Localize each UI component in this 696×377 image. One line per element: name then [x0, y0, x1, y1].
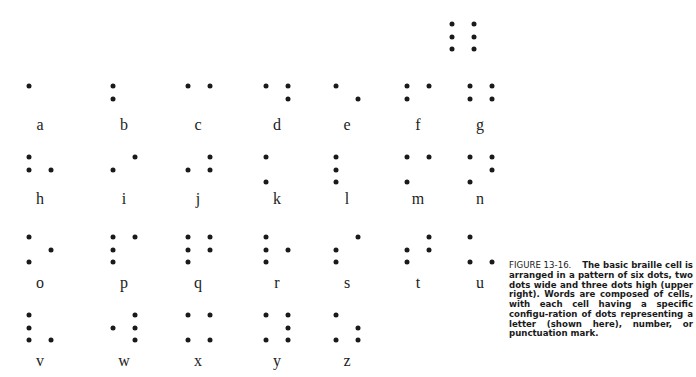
braille-dot-4: [426, 235, 431, 240]
braille-dot-3: [450, 47, 455, 52]
braille-dot-2: [405, 96, 410, 101]
letter-label-u: u: [476, 275, 484, 291]
braille-dot-1: [405, 84, 410, 89]
braille-dot-1: [186, 313, 191, 318]
letter-label-b: b: [120, 117, 128, 133]
letter-label-j: j: [196, 191, 200, 207]
braille-dot-5: [471, 34, 476, 39]
braille-dot-4: [207, 84, 212, 89]
braille-dot-3: [334, 260, 339, 265]
braille-dot-1: [468, 155, 473, 160]
braille-dot-1: [186, 84, 191, 89]
braille-dot-5: [285, 247, 290, 252]
braille-dot-2: [111, 167, 116, 172]
braille-dot-6: [489, 260, 494, 265]
letter-label-t: t: [416, 275, 420, 291]
braille-dot-4: [471, 22, 476, 27]
braille-dot-4: [489, 155, 494, 160]
letter-label-k: k: [273, 191, 281, 207]
braille-dot-5: [285, 325, 290, 330]
braille-dot-3: [468, 180, 473, 185]
braille-dot-4: [207, 235, 212, 240]
braille-dot-3: [334, 180, 339, 185]
letter-label-v: v: [36, 353, 44, 369]
braille-dot-4: [132, 235, 137, 240]
letter-label-n: n: [476, 191, 484, 207]
braille-dot-2: [264, 247, 269, 252]
braille-dot-6: [48, 338, 53, 343]
braille-dot-1: [264, 84, 269, 89]
letter-label-o: o: [36, 275, 44, 291]
braille-dot-4: [355, 235, 360, 240]
braille-dot-2: [334, 167, 339, 172]
braille-dot-3: [405, 180, 410, 185]
letter-label-i: i: [122, 191, 126, 207]
letter-label-h: h: [36, 191, 44, 207]
braille-dot-1: [186, 235, 191, 240]
figure-number: FIGURE 13-16.: [509, 260, 571, 270]
braille-dot-1: [334, 155, 339, 160]
braille-dot-5: [489, 167, 494, 172]
braille-dot-5: [489, 96, 494, 101]
braille-dot-3: [264, 260, 269, 265]
braille-dot-1: [334, 84, 339, 89]
braille-dot-5: [355, 325, 360, 330]
braille-dot-3: [468, 260, 473, 265]
braille-dot-2: [334, 247, 339, 252]
letter-label-x: x: [194, 353, 202, 369]
braille-dot-4: [207, 155, 212, 160]
letter-label-d: d: [273, 117, 281, 133]
braille-dot-4: [207, 313, 212, 318]
letter-label-l: l: [345, 191, 349, 207]
letter-label-m: m: [412, 191, 424, 207]
braille-dot-3: [27, 260, 32, 265]
braille-dot-3: [405, 260, 410, 265]
braille-dot-1: [468, 235, 473, 240]
braille-dot-2: [468, 96, 473, 101]
braille-dot-3: [264, 180, 269, 185]
braille-dot-5: [207, 167, 212, 172]
braille-dot-5: [48, 247, 53, 252]
braille-dot-2: [405, 247, 410, 252]
letter-label-y: y: [273, 353, 281, 369]
braille-dot-1: [264, 235, 269, 240]
braille-dot-1: [334, 313, 339, 318]
braille-dot-4: [426, 84, 431, 89]
braille-dot-6: [285, 338, 290, 343]
braille-dot-1: [264, 313, 269, 318]
letter-label-f: f: [415, 117, 420, 133]
braille-dot-3: [186, 260, 191, 265]
letter-label-s: s: [344, 275, 350, 291]
braille-dot-2: [450, 34, 455, 39]
braille-dot-1: [111, 84, 116, 89]
braille-dot-5: [426, 247, 431, 252]
braille-dot-1: [111, 235, 116, 240]
braille-dot-2: [111, 96, 116, 101]
braille-dot-1: [264, 155, 269, 160]
braille-dot-1: [27, 84, 32, 89]
letter-label-z: z: [343, 353, 350, 369]
braille-dot-6: [471, 47, 476, 52]
braille-dot-4: [426, 155, 431, 160]
letter-label-q: q: [194, 275, 202, 291]
braille-dot-4: [285, 313, 290, 318]
braille-dot-4: [132, 313, 137, 318]
letter-label-w: w: [118, 353, 130, 369]
braille-dot-2: [111, 325, 116, 330]
braille-dot-3: [186, 338, 191, 343]
braille-dot-1: [27, 155, 32, 160]
braille-dot-2: [186, 247, 191, 252]
braille-dot-2: [111, 247, 116, 252]
letter-label-r: r: [274, 275, 279, 291]
braille-dot-1: [405, 155, 410, 160]
caption-text: The basic braille cell is arranged in a …: [509, 260, 693, 338]
figure-caption: FIGURE 13-16. The basic braille cell is …: [509, 261, 693, 339]
braille-dot-6: [132, 338, 137, 343]
braille-dot-3: [334, 338, 339, 343]
braille-dot-1: [468, 84, 473, 89]
braille-dot-1: [27, 313, 32, 318]
braille-dot-2: [27, 325, 32, 330]
braille-dot-3: [111, 260, 116, 265]
braille-dot-2: [27, 167, 32, 172]
braille-dot-3: [27, 338, 32, 343]
